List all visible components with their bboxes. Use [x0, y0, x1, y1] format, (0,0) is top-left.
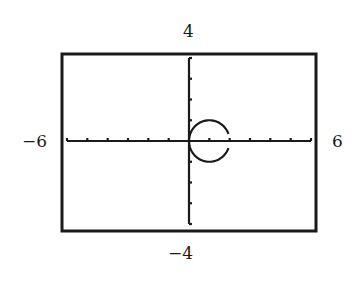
graph-window	[0, 0, 355, 283]
